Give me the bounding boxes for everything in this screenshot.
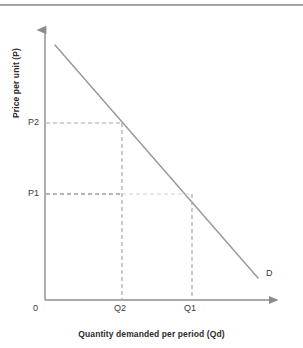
demand-curve-plot: [0, 0, 303, 348]
x-tick-label-q1: Q1: [184, 303, 196, 313]
y-tick-label-p1: P1: [28, 188, 39, 198]
origin-label: 0: [33, 303, 38, 313]
demand-curve-label: D: [266, 268, 273, 278]
demand-curve-figure: Price per unit (P) Quantity demanded per…: [0, 0, 303, 348]
x-tick-label-q2: Q2: [114, 303, 126, 313]
y-tick-label-p2: P2: [28, 117, 39, 127]
x-axis-title: Quantity demanded per period (Qd): [0, 329, 303, 339]
y-axis-title: Price per unit (P): [11, 23, 21, 143]
demand-curve-line: [55, 45, 258, 278]
